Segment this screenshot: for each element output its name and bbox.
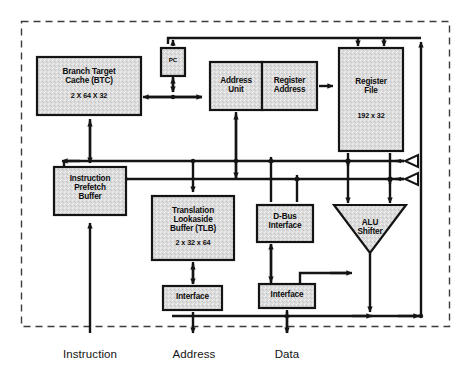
block-instruction-prefetch-buffer[interactable]: [54, 167, 126, 215]
block-register-file[interactable]: [339, 48, 403, 151]
tri-state-buffer-top: [396, 155, 418, 167]
block-register-address[interactable]: [262, 62, 317, 110]
block-interface-address[interactable]: [163, 286, 222, 310]
port-label-data: Data: [255, 348, 319, 360]
block-interface-data[interactable]: [259, 284, 315, 308]
tri-state-buffer-bottom: [396, 173, 418, 185]
port-label-instruction: Instruction: [45, 348, 135, 360]
diagram-canvas: Branch Target Cache (BTC) 2 X 64 X 32 In…: [0, 0, 473, 382]
port-label-address: Address: [155, 348, 233, 360]
block-d-bus-interface[interactable]: [257, 205, 313, 242]
cpu-block-diagram: [0, 0, 473, 382]
block-program-counter[interactable]: [161, 48, 185, 76]
block-address-unit[interactable]: [210, 62, 262, 110]
block-alu-shifter[interactable]: [334, 205, 406, 253]
bus-top-feedback: [168, 38, 335, 44]
block-branch-target-cache[interactable]: [37, 57, 141, 115]
block-translation-lookaside-buffer[interactable]: [152, 196, 234, 260]
